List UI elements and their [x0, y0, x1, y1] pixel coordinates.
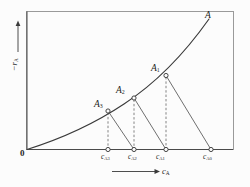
marker-cA3 [106, 147, 110, 151]
operating-line-1 [166, 76, 211, 150]
arrow-right-icon [155, 169, 161, 174]
marker-A1 [164, 73, 168, 77]
figure-container: A A1 A2 A3 cA3 cA2 cA1 cA0 0 cA −rA [0, 0, 250, 187]
point-label-A1: A1 [151, 64, 160, 74]
operating-line-3 [108, 111, 134, 150]
point-label-A3: A3 [94, 100, 103, 110]
x-axis-label: cA [162, 167, 170, 177]
y-axis-label: −rA [10, 47, 20, 83]
axis-label-cA0: cA0 [203, 153, 212, 162]
arrow-up-icon [16, 21, 21, 27]
axis-label-cA2: cA2 [128, 153, 137, 162]
axis-label-cA3: cA3 [101, 153, 110, 162]
marker-cA0 [209, 147, 213, 151]
plot-canvas [0, 0, 250, 187]
marker-A2 [132, 96, 136, 100]
point-label-A: A [205, 11, 211, 21]
axis-label-cA1: cA1 [156, 153, 165, 162]
origin-label: 0 [20, 149, 25, 158]
marker-cA1 [164, 147, 168, 151]
marker-cA2 [132, 147, 136, 151]
point-label-A2: A2 [116, 86, 125, 96]
marker-A3 [106, 109, 110, 113]
plot-frame [27, 12, 234, 150]
operating-line-2 [134, 98, 166, 150]
